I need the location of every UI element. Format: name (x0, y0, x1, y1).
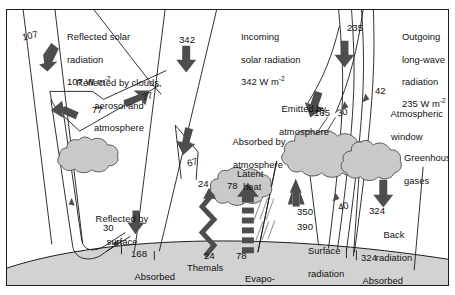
label-reflected-by-clouds: Reflected by clouds, aerosol and atmosph… (52, 66, 170, 144)
label-surface-radiation-line1: Surface (308, 245, 341, 256)
label-surface-radiation: Surface radiation (292, 234, 344, 286)
atmospheric-window-band-1 (346, 10, 363, 250)
label-incoming-solar-line2: solar radiation (241, 54, 301, 65)
label-reflected-solar-line2: radiation (67, 54, 103, 65)
arrow-surface-radiation-350 (288, 179, 305, 207)
value-surface-radiation-350: 350 (297, 207, 313, 217)
label-reflected-by-clouds-line3: atmosphere (94, 122, 144, 133)
label-emitted-by-line2: atmosphere (279, 126, 329, 137)
label-back-radiation-line2: radiation (376, 252, 412, 263)
label-surface-radiation-line2: radiation (308, 268, 344, 279)
diagram-frame: Reflected solar radiation 107 W m-2 107 … (6, 9, 449, 286)
label-incoming-solar-line1: Incoming (241, 31, 279, 42)
value-outgoing-longwave-235: 235 (347, 23, 363, 33)
value-reflected-clouds-77-left: 77 (92, 105, 103, 115)
value-absorbed-surface-right-324: 324 (361, 253, 377, 263)
value-surface-radiation-390: 390 (297, 222, 313, 232)
value-reflected-by-surface-30: 30 (103, 223, 114, 233)
atmospheric-window-arrowhead (362, 93, 369, 102)
value-thermals-bottom-24: 24 (204, 251, 215, 261)
label-atmospheric-window-line1: Atmospheric (390, 108, 443, 119)
label-absorbed-atmosphere-line1: Absorbed by (232, 136, 285, 147)
value-atmospheric-window-42: 42 (375, 86, 386, 96)
arrow-absorbed-atmosphere-67 (176, 127, 195, 155)
label-greenhouse-gases-line2: gases (404, 175, 429, 186)
label-reflected-by-surface-line2: surface (106, 236, 137, 247)
label-greenhouse-gases-line1: Greenhouse (404, 152, 449, 163)
figure-canvas: Reflected solar radiation 107 W m-2 107 … (0, 0, 455, 295)
value-back-radiation-324: 324 (369, 206, 385, 216)
label-incoming-solar: Incoming solar radiation 342 W m-2 (225, 20, 301, 98)
label-absorbed-by-surface-right: Absorbed by surface (340, 264, 410, 286)
arrow-incoming-solar-342 (176, 46, 196, 73)
label-atmospheric-window-line2: window (391, 131, 423, 142)
value-latent-heat-78: 78 (227, 181, 238, 191)
value-absorbed-surface-168: 168 (131, 249, 147, 259)
label-thermals: Themals (187, 262, 223, 273)
label-outgoing-longwave-line3: radiation (402, 76, 438, 87)
label-evapotranspiration-line1: Evapo- (245, 273, 275, 284)
label-outgoing-longwave-line2: long-wave (402, 54, 445, 65)
label-outgoing-longwave-line1: Outgoing (402, 31, 440, 42)
back-radiation-40-arrowhead (333, 193, 340, 202)
label-reflected-solar-line1: Reflected solar (67, 31, 130, 42)
value-latent-heat-bottom-78: 78 (236, 251, 247, 261)
label-absorbed-surface-right-line1: Absorbed (362, 275, 403, 286)
arrow-outgoing-longwave-235 (335, 41, 355, 68)
label-latent-heat: heat (243, 181, 261, 192)
label-absorbed-by-surface-left: Absorbed by surface (112, 260, 182, 286)
label-incoming-solar-exponent: -2 (279, 75, 285, 82)
label-reflected-by-clouds-line1: Reflected by clouds, (76, 77, 161, 88)
label-back-radiation-line1: Back (383, 229, 404, 240)
label-greenhouse-gases: Greenhouse gases (388, 141, 449, 197)
label-evapotranspiration: Evapo- transpiration (229, 262, 297, 286)
value-thermals-24: 24 (198, 179, 209, 189)
value-incoming-solar-342: 342 (179, 35, 195, 45)
label-absorbed-surface-left-line1: Absorbed (134, 271, 175, 282)
label-incoming-solar-value: 342 W m (241, 76, 279, 87)
value-emitted-atmosphere-165: 165 (314, 108, 330, 118)
label-latent: Latent (237, 168, 263, 179)
